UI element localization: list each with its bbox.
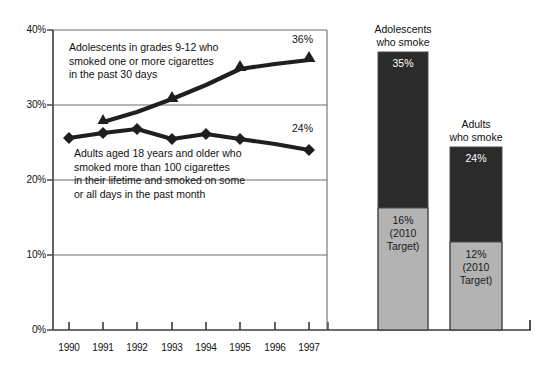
data-marker-diamond	[200, 128, 212, 140]
data-marker-diamond	[97, 127, 109, 139]
y-tick-label-20: 20%	[8, 174, 46, 185]
adolescents-bar-target-value: 16% (2010 Target)	[378, 214, 428, 253]
adolescent-annotation-line-3: in the past 30 days	[69, 68, 218, 82]
y-tick-label-10: 10%	[8, 249, 46, 260]
adult-annotation-line-4: or all days in the past month	[74, 188, 245, 202]
data-marker-triangle	[303, 51, 316, 62]
adults-bar-title: Adults who smoke	[436, 118, 516, 143]
adolescents-bar-title-line-1: Adolescents	[363, 23, 443, 36]
x-axis-ticks	[69, 322, 309, 330]
bar-adults	[450, 147, 502, 330]
adult-end-value-label: 24%	[292, 122, 313, 134]
data-marker-diamond	[131, 123, 143, 135]
bar-segment-current	[378, 52, 428, 208]
adults-bar-title-line-1: Adults	[436, 118, 516, 131]
adult-annotation: Adults aged 18 years and older who smoke…	[74, 147, 245, 201]
adolescent-annotation-line-2: smoked one or more cigarettes	[69, 55, 218, 69]
adolescents-target-line-1: 16%	[378, 214, 428, 227]
bar-adolescents	[378, 52, 428, 330]
adults-target-line-3: Target)	[450, 274, 502, 287]
adults-target-line-2: (2010	[450, 261, 502, 274]
adolescents-bar-current-value: 35%	[378, 57, 428, 69]
y-axis-ticks	[47, 30, 53, 330]
adolescent-end-value-label: 36%	[292, 33, 313, 45]
data-marker-diamond	[166, 133, 178, 145]
adult-annotation-line-2: smoked more than 100 cigarettes	[74, 161, 245, 175]
y-tick-label-40: 40%	[8, 24, 46, 35]
data-marker-diamond	[63, 132, 75, 144]
data-marker-triangle	[234, 60, 247, 71]
adults-target-line-1: 12%	[450, 248, 502, 261]
adolescents-target-line-2: (2010	[378, 227, 428, 240]
y-tick-label-30: 30%	[8, 99, 46, 110]
adolescents-target-line-3: Target)	[378, 240, 428, 253]
adults-bar-target-value: 12% (2010 Target)	[450, 248, 502, 287]
data-marker-diamond	[234, 133, 246, 145]
adolescents-bar-title-line-2: who smoke	[363, 36, 443, 49]
adolescent-annotation: Adolescents in grades 9-12 who smoked on…	[69, 41, 218, 82]
adolescents-bar-title: Adolescents who smoke	[363, 23, 443, 48]
adults-bar-title-line-2: who smoke	[436, 131, 516, 144]
x-tick-label-1997: 1997	[284, 342, 334, 353]
y-tick-label-0: 0%	[8, 324, 46, 335]
adult-annotation-line-1: Adults aged 18 years and older who	[74, 147, 245, 161]
smoking-rates-figure: 40% 30% 20% 10% 0% 1990 1991 1992 1993 1…	[0, 0, 549, 378]
adult-annotation-line-3: in their lifetime and smoked on some	[74, 174, 245, 188]
adults-bar-current-value: 24%	[450, 152, 502, 164]
adolescent-annotation-line-1: Adolescents in grades 9-12 who	[69, 41, 218, 55]
data-marker-diamond	[303, 144, 315, 156]
